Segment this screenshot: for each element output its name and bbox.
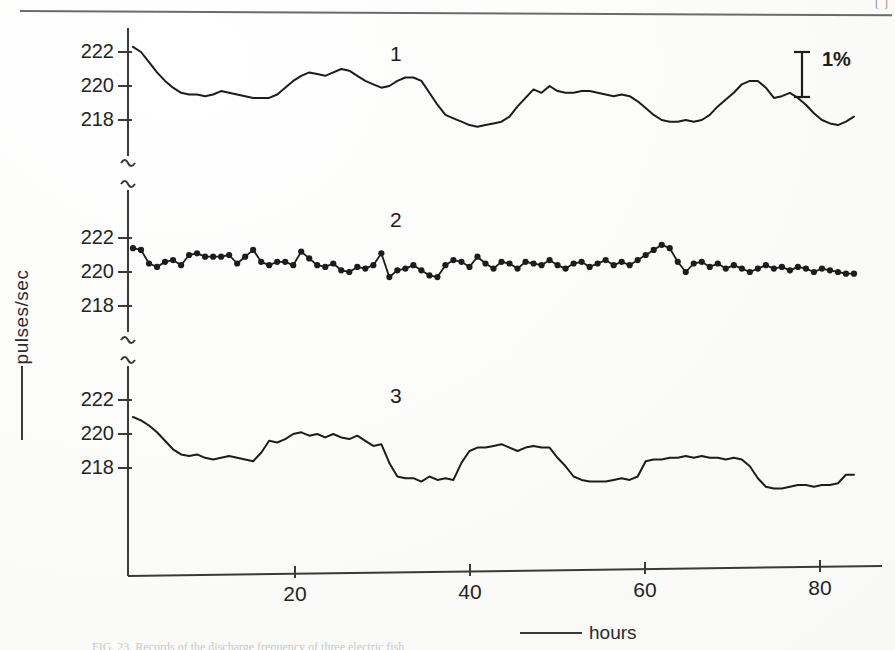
data-point (138, 247, 144, 253)
y-tick-label-222-p2: 222 (58, 226, 114, 249)
x-axis (128, 566, 882, 576)
data-point (170, 257, 176, 263)
data-point (146, 260, 152, 266)
data-point (763, 262, 769, 268)
data-point (747, 269, 753, 275)
data-point (338, 267, 344, 273)
data-point (715, 260, 721, 266)
data-point (434, 274, 440, 280)
panel-label-1: 1 (390, 42, 402, 66)
trace-line-1 (133, 47, 854, 127)
data-point (474, 254, 480, 260)
data-point (458, 259, 464, 265)
data-point (210, 254, 216, 260)
data-point (282, 259, 288, 265)
data-point (482, 260, 488, 266)
data-point (290, 262, 296, 268)
data-point (562, 266, 568, 272)
data-point (835, 269, 841, 275)
data-point (186, 252, 192, 258)
data-point (611, 262, 617, 268)
data-point (514, 266, 520, 272)
data-point (603, 257, 609, 263)
panel-label-3: 3 (390, 384, 402, 408)
y-tick-label-220-p2: 220 (58, 260, 114, 283)
data-point (386, 274, 392, 280)
data-point (675, 259, 681, 265)
data-point (571, 260, 577, 266)
data-point (787, 267, 793, 273)
data-point (490, 266, 496, 272)
data-point (546, 257, 552, 263)
data-point (154, 264, 160, 270)
data-point (442, 262, 448, 268)
trace-line-3 (133, 417, 854, 488)
data-point (731, 262, 737, 268)
data-point (402, 266, 408, 272)
data-point (202, 254, 208, 260)
data-point (194, 250, 200, 256)
x-tick-label-40: 40 (446, 580, 494, 604)
data-point (619, 259, 625, 265)
data-point (394, 267, 400, 273)
data-point (683, 269, 689, 275)
data-point (370, 262, 376, 268)
y-tick-label-218-p1: 218 (58, 108, 114, 131)
panel-label-2: 2 (390, 208, 402, 232)
data-point (851, 271, 857, 277)
data-point (266, 262, 272, 268)
data-point (659, 242, 665, 248)
data-point (234, 260, 240, 266)
data-point (819, 266, 825, 272)
figure-plot (0, 0, 895, 650)
x-tick-label-60: 60 (621, 578, 669, 602)
y-tick-label-222-p3: 222 (58, 388, 114, 411)
data-point (579, 259, 585, 265)
x-tick-label-80: 80 (796, 576, 844, 600)
data-point (627, 262, 633, 268)
data-point (779, 264, 785, 270)
data-point (755, 266, 761, 272)
data-point (330, 260, 336, 266)
axis-break-upper-icon (121, 160, 135, 166)
data-point (226, 252, 232, 258)
axis-break-upper-2-icon (121, 337, 135, 343)
data-point (322, 264, 328, 270)
data-point (314, 262, 320, 268)
axis-break-lower-icon (121, 181, 135, 187)
data-point (522, 259, 528, 265)
data-point (450, 257, 456, 263)
data-point (418, 267, 424, 273)
data-point (346, 269, 352, 275)
axis-group (118, 28, 882, 578)
data-point (466, 264, 472, 270)
data-point (803, 266, 809, 272)
data-point (554, 262, 560, 268)
y-tick-label-218-p3: 218 (58, 456, 114, 479)
data-point (274, 259, 280, 265)
trace-line-2 (133, 245, 854, 277)
data-point (691, 260, 697, 266)
axis-break-lower-2-icon (121, 357, 135, 363)
data-point (699, 259, 705, 265)
data-point (811, 269, 817, 275)
data-point (426, 272, 432, 278)
data-point (739, 266, 745, 272)
data-point (306, 255, 312, 261)
data-point (378, 250, 384, 256)
data-point (298, 249, 304, 255)
figure-caption: FIG. 23. Records of the discharge freque… (92, 640, 404, 650)
x-axis-label-dash (520, 632, 582, 634)
data-point (723, 266, 729, 272)
y-tick-label-218-p2: 218 (58, 294, 114, 317)
y-tick-label-220-p1: 220 (58, 74, 114, 97)
data-point (530, 260, 536, 266)
data-point (242, 254, 248, 260)
data-point (538, 262, 544, 268)
data-point (498, 259, 504, 265)
data-point (162, 259, 168, 265)
figure-page: [ ] pulses/sec (0, 0, 895, 650)
data-point (707, 264, 713, 270)
data-point (635, 257, 641, 263)
data-point (178, 262, 184, 268)
